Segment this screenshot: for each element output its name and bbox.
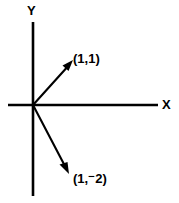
vector-1-1-label: (1,1) <box>73 52 100 65</box>
vector-diagram: Y X (1,1) (1,⁻2) <box>0 0 179 203</box>
vector-1-minus2-label: (1,⁻2) <box>73 172 107 185</box>
y-axis-label: Y <box>27 4 36 17</box>
x-axis-label: X <box>162 98 171 111</box>
vector-1-1-shaft <box>33 64 70 105</box>
vector-1-minus2-arrowhead <box>60 162 70 174</box>
vector-1-minus2-shaft <box>33 105 67 169</box>
